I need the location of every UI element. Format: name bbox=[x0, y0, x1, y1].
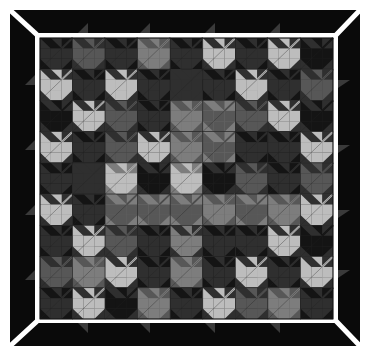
quilt-block bbox=[203, 163, 236, 194]
quilt-block bbox=[268, 38, 301, 69]
quilt-block-grid bbox=[40, 38, 333, 319]
quilt-block bbox=[300, 257, 333, 288]
quilt-block bbox=[235, 194, 268, 225]
quilt-block bbox=[170, 100, 203, 131]
quilt-block bbox=[300, 194, 333, 225]
quilt-block bbox=[203, 69, 236, 100]
quilt-block bbox=[40, 257, 73, 288]
quilt-block bbox=[40, 38, 73, 69]
quilt-block bbox=[300, 69, 333, 100]
quilt-block bbox=[105, 288, 138, 319]
quilt-block bbox=[300, 163, 333, 194]
quilt-block bbox=[138, 194, 171, 225]
quilt-block bbox=[105, 69, 138, 100]
quilt-block bbox=[170, 194, 203, 225]
quilt-block bbox=[73, 194, 106, 225]
quilt-block bbox=[40, 194, 73, 225]
quilt-block bbox=[235, 257, 268, 288]
quilt-block bbox=[300, 288, 333, 319]
quilt-block bbox=[203, 225, 236, 256]
quilt-block bbox=[170, 257, 203, 288]
quilt-block bbox=[170, 38, 203, 69]
quilt-block bbox=[300, 38, 333, 69]
quilt-block bbox=[138, 225, 171, 256]
quilt-block bbox=[138, 38, 171, 69]
quilt-block bbox=[40, 288, 73, 319]
quilt-block bbox=[138, 100, 171, 131]
quilt-block bbox=[40, 100, 73, 131]
quilt-block bbox=[73, 163, 106, 194]
quilt-block bbox=[235, 225, 268, 256]
quilt-block bbox=[268, 194, 301, 225]
quilt-block bbox=[203, 194, 236, 225]
quilt-block bbox=[138, 288, 171, 319]
quilt-block bbox=[105, 225, 138, 256]
quilt-block bbox=[268, 257, 301, 288]
quilt-block bbox=[40, 225, 73, 256]
quilt-block bbox=[105, 100, 138, 131]
quilt-block bbox=[73, 69, 106, 100]
quilt-block bbox=[170, 288, 203, 319]
quilt-block bbox=[203, 288, 236, 319]
quilt-block bbox=[73, 38, 106, 69]
quilt-block bbox=[268, 288, 301, 319]
quilt-block bbox=[235, 100, 268, 131]
quilt-block bbox=[170, 163, 203, 194]
quilt-block bbox=[73, 225, 106, 256]
quilt-block bbox=[235, 288, 268, 319]
quilt-block bbox=[268, 132, 301, 163]
quilt-block bbox=[73, 288, 106, 319]
quilt-block bbox=[138, 132, 171, 163]
quilt-block bbox=[138, 69, 171, 100]
quilt-block bbox=[268, 163, 301, 194]
quilt-block bbox=[138, 257, 171, 288]
quilt-block bbox=[268, 69, 301, 100]
quilt-block bbox=[235, 132, 268, 163]
quilt-block bbox=[300, 225, 333, 256]
quilt-block bbox=[105, 257, 138, 288]
quilt-block bbox=[105, 163, 138, 194]
quilt-block bbox=[203, 257, 236, 288]
quilt-block bbox=[138, 163, 171, 194]
quilt-block bbox=[235, 69, 268, 100]
quilt-block bbox=[300, 100, 333, 131]
quilt-block bbox=[235, 163, 268, 194]
quilt-block bbox=[300, 132, 333, 163]
quilt-block bbox=[73, 257, 106, 288]
quilt-block bbox=[268, 225, 301, 256]
quilt-block bbox=[203, 100, 236, 131]
quilt-block bbox=[40, 69, 73, 100]
quilt-image bbox=[0, 0, 369, 356]
quilt-block bbox=[170, 132, 203, 163]
quilt-block bbox=[105, 38, 138, 69]
quilt-block bbox=[203, 132, 236, 163]
quilt-block bbox=[40, 163, 73, 194]
quilt-block bbox=[268, 100, 301, 131]
quilt-block bbox=[73, 100, 106, 131]
quilt-block bbox=[203, 38, 236, 69]
quilt-block bbox=[170, 225, 203, 256]
quilt-block bbox=[170, 69, 203, 100]
quilt-block bbox=[235, 38, 268, 69]
quilt-block bbox=[73, 132, 106, 163]
quilt-block bbox=[40, 132, 73, 163]
quilt-block bbox=[105, 132, 138, 163]
quilt-block bbox=[105, 194, 138, 225]
